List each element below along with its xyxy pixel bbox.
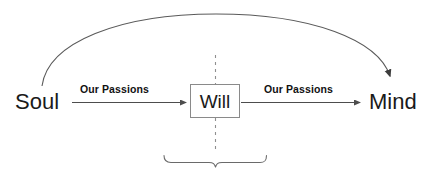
diagram-canvas: Soul Mind Our Passions Our Passions Will — [0, 0, 430, 177]
edge-label-soul-to-will: Our Passions — [80, 84, 149, 95]
node-label-will: Will — [191, 85, 239, 117]
node-label-soul: Soul — [15, 91, 59, 113]
node-label-mind: Mind — [369, 91, 417, 113]
node-box-will: Will — [190, 84, 240, 118]
edge-soul-to-mind-curved-arrow — [42, 14, 390, 86]
bottom-curly-brace — [164, 156, 267, 168]
edge-label-will-to-mind: Our Passions — [264, 84, 333, 95]
